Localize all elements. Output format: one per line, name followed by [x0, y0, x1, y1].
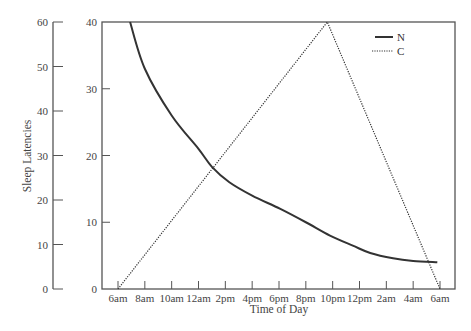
legend-item-n: N — [375, 31, 405, 43]
left-y-tick-label: 10 — [37, 239, 49, 251]
sleep-latency-chart: 0102030405060 Sleep Latencies 010203040 … — [0, 0, 471, 331]
x-tick-label: 6am — [109, 292, 128, 304]
left-y-tick-label: 60 — [37, 16, 49, 28]
x-tick-label: 2pm — [216, 292, 236, 304]
x-tick-label: 10am — [159, 292, 184, 304]
left-y-axis: 0102030405060 — [37, 16, 63, 295]
x-tick-label: 10pm — [320, 292, 346, 304]
plot-area — [102, 22, 455, 289]
series-line-n — [130, 22, 437, 262]
left-y-tick-label: 40 — [37, 105, 49, 117]
inner-y-tick-label: 40 — [86, 16, 98, 28]
legend: N C — [372, 31, 405, 57]
x-tick-label: 12pm — [347, 292, 373, 304]
legend-label-c: C — [397, 45, 404, 57]
left-y-tick-label: 0 — [43, 283, 49, 295]
inner-y-tick-label: 0 — [92, 283, 98, 295]
series-group — [118, 22, 440, 289]
left-y-tick-label: 30 — [37, 150, 49, 162]
inner-y-tick-label: 10 — [86, 216, 98, 228]
series-line-c — [118, 22, 440, 289]
x-tick-label: 12am — [186, 292, 211, 304]
legend-label-n: N — [397, 31, 405, 43]
x-axis-title: Time of Day — [250, 303, 309, 316]
left-y-tick-label: 20 — [37, 194, 49, 206]
x-tick-label: 2am — [377, 292, 396, 304]
inner-y-tick-label: 20 — [86, 150, 98, 162]
y-axis-title: Sleep Latencies — [21, 119, 34, 192]
x-axis: 6am8am10am12am2pm4pm6pm8pm10pm12pm2am4am… — [109, 281, 450, 304]
legend-item-c: C — [372, 45, 404, 57]
inner-y-axis: 010203040 — [86, 16, 110, 295]
x-tick-label: 6am — [431, 292, 450, 304]
x-tick-label: 8am — [135, 292, 154, 304]
inner-y-tick-label: 30 — [86, 83, 98, 95]
x-tick-label: 4am — [404, 292, 423, 304]
left-y-tick-label: 50 — [37, 61, 49, 73]
